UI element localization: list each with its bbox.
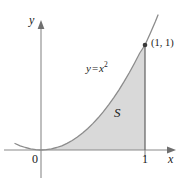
y-axis-label: y — [29, 14, 34, 26]
shaded-region-S — [41, 45, 145, 150]
parabola-area-figure: y x 0 1 y=x2 S (1, 1) — [0, 0, 185, 181]
curve-equation-equals: = — [91, 62, 99, 74]
figure-canvas — [0, 0, 185, 181]
origin-label: 0 — [32, 153, 38, 165]
region-label-S: S — [114, 106, 121, 119]
x-axis-label: x — [168, 153, 173, 165]
curve-equation-label: y=x2 — [86, 63, 108, 74]
point-label-1-1: (1, 1) — [151, 38, 174, 49]
y-axis-arrowhead — [38, 20, 45, 29]
x-tick-label-1: 1 — [142, 153, 148, 165]
curve-equation-exponent: 2 — [104, 60, 108, 69]
point-1-1-marker — [143, 43, 148, 48]
